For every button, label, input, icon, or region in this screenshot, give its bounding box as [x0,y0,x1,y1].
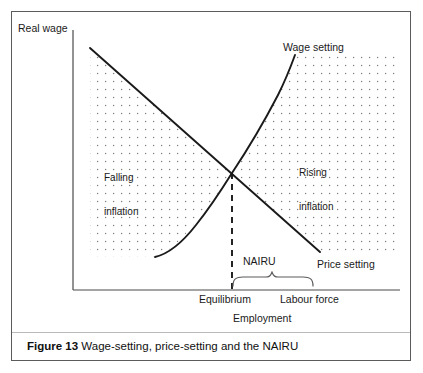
figure-border [11,11,411,361]
falling-inflation-label: Falling inflation [104,150,138,240]
x-axis-label: Employment [233,313,291,325]
price-setting-label: Price setting [317,259,375,271]
nairu-label: NAIRU [243,256,276,268]
figure-caption-number: Figure 13 [27,340,78,352]
y-axis-label: Real wage [18,23,68,35]
equilibrium-label: Equilibrium [199,294,251,306]
caption-divider [12,332,410,333]
falling-inflation-line-1: Falling [104,172,138,183]
labour-force-label: Labour force [280,294,339,306]
figure-caption: Figure 13 Wage-setting, price-setting an… [27,340,298,352]
rising-inflation-line-2: inflation [299,201,333,212]
rising-inflation-line-1: Rising [299,167,333,178]
figure-caption-text: Wage-setting, price-setting and the NAIR… [78,340,298,352]
falling-inflation-line-2: inflation [104,206,138,217]
wage-setting-label: Wage setting [283,42,344,54]
rising-inflation-label: Rising inflation [299,145,333,235]
figure-container: Real wage Wage setting Price setting Fal… [0,0,423,373]
